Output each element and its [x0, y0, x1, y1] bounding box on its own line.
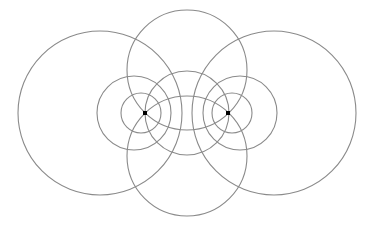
circle-small-right — [212, 93, 252, 133]
circle-medium-right — [203, 76, 277, 150]
circle-big-right — [192, 31, 356, 195]
diagram-canvas — [0, 0, 374, 228]
circle-diagram — [0, 0, 374, 228]
circle-big-left — [18, 31, 182, 195]
circle-small-left — [121, 93, 161, 133]
circle-medium-left — [97, 76, 171, 150]
circle-middle — [145, 71, 229, 155]
circles-layer — [18, 10, 356, 216]
points-layer — [143, 111, 230, 115]
point-right-focus — [226, 111, 230, 115]
point-left-focus — [143, 111, 147, 115]
